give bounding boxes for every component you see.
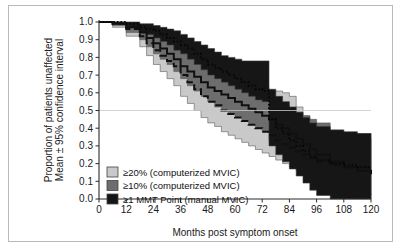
x-tick-label: 72: [257, 204, 269, 215]
y-tick-label: 0.9: [79, 34, 93, 45]
x-tick-label: 84: [284, 204, 296, 215]
y-tick-label: 0.1: [79, 176, 93, 187]
x-axis-title: Months post symptom onset: [172, 227, 297, 238]
legend-label: ≥20% (computerized MVIC): [123, 167, 240, 178]
legend-swatch[interactable]: [107, 167, 118, 177]
y-tick-label: 0.4: [79, 123, 93, 134]
y-tick-label: 0.3: [79, 140, 93, 151]
x-tick-label: 60: [229, 204, 241, 215]
y-tick-label: 0.0: [79, 193, 93, 204]
x-tick-label: 0: [96, 204, 102, 215]
legend-label: ≥10% (computerized MVIC): [123, 180, 240, 191]
y-tick-label: 0.8: [79, 52, 93, 63]
x-tick-label: 36: [175, 204, 187, 215]
x-tick-label: 12: [121, 204, 133, 215]
y-tick-label: 0.5: [79, 105, 93, 116]
x-tick-label: 120: [363, 204, 380, 215]
legend-swatch[interactable]: [107, 194, 118, 204]
x-tick-label: 48: [202, 204, 214, 215]
x-tick-label: 96: [311, 204, 323, 215]
legend-label: ≥1 MMT Point (manual MVIC): [123, 194, 248, 205]
y-axis-title-line2: Mean ± 95% confidence interval: [54, 39, 65, 181]
survival-chart: 0.00.10.20.30.40.50.60.70.80.91.00122436…: [0, 0, 403, 249]
x-tick-label: 24: [148, 204, 160, 215]
legend-swatch[interactable]: [107, 181, 118, 191]
x-tick-label: 108: [335, 204, 352, 215]
y-tick-label: 0.2: [79, 158, 93, 169]
y-tick-label: 0.6: [79, 87, 93, 98]
chart-legend[interactable]: ≥20% (computerized MVIC)≥10% (computeriz…: [107, 167, 248, 205]
y-axis-title-line1: Proportion of patients unaffected: [43, 38, 54, 182]
y-tick-label: 1.0: [79, 16, 93, 27]
y-tick-label: 0.7: [79, 70, 93, 81]
